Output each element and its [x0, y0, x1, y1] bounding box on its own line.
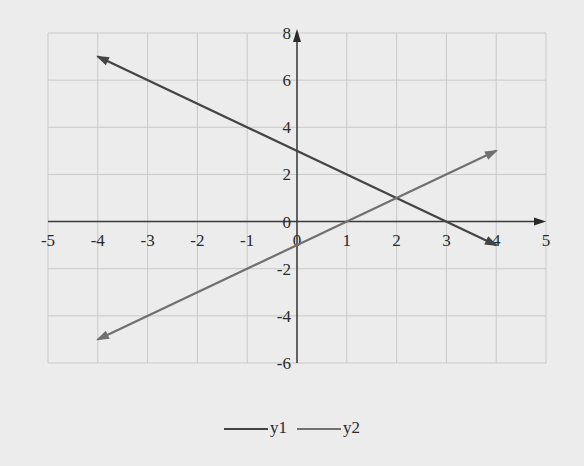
legend-swatch-y1	[224, 428, 268, 430]
tick-labels: -5-4-3-2-101234586420-2-4-6	[41, 24, 550, 373]
svg-text:-4: -4	[277, 307, 292, 326]
svg-text:0: 0	[283, 213, 292, 232]
line-chart: -5-4-3-2-101234586420-2-4-6	[0, 0, 584, 466]
svg-text:-4: -4	[91, 231, 106, 250]
svg-text:1: 1	[343, 231, 352, 250]
svg-text:4: 4	[492, 231, 501, 250]
svg-text:4: 4	[283, 118, 292, 137]
legend-item-y2: y2	[297, 418, 360, 438]
legend-label: y2	[343, 418, 360, 438]
svg-text:-3: -3	[141, 231, 155, 250]
legend-label: y1	[270, 418, 287, 438]
legend-swatch-y2	[297, 428, 341, 430]
svg-text:8: 8	[283, 24, 292, 43]
axes	[48, 29, 546, 363]
svg-text:5: 5	[542, 231, 551, 250]
svg-text:-1: -1	[240, 231, 254, 250]
svg-text:-5: -5	[41, 231, 55, 250]
svg-text:-2: -2	[190, 231, 204, 250]
svg-text:2: 2	[392, 231, 401, 250]
svg-text:-2: -2	[277, 260, 291, 279]
legend-item-y1: y1	[224, 418, 287, 438]
svg-text:3: 3	[442, 231, 451, 250]
svg-text:2: 2	[283, 165, 292, 184]
svg-text:6: 6	[283, 71, 292, 90]
svg-text:-6: -6	[277, 354, 291, 373]
legend: y1 y2	[0, 418, 584, 438]
